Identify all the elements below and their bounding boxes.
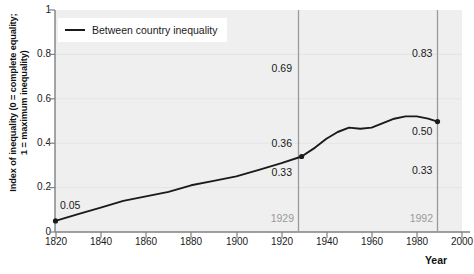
annotation-value: 0.50 [412,125,432,137]
annotation-value: 0.36 [252,137,292,149]
data-point-markers [53,119,440,223]
annotation-value: 0.83 [412,47,432,59]
annotation-value: 0.33 [412,164,432,176]
x-axis-tick-marks [56,232,462,238]
vertical-line-label-1929: 1929 [254,212,294,224]
axis-lines [55,10,470,232]
annotation-value: 0.05 [60,199,80,211]
annotation-value: 0.33 [252,166,292,178]
legend-entry-label: Between country inequality [92,24,218,36]
vertical-reference-lines [299,10,438,232]
data-line-between-country-inequality [56,116,438,220]
legend-line-swatch [65,29,85,31]
vertical-line-label-1992: 1992 [393,212,433,224]
annotation-value: 0.69 [252,62,292,74]
y-axis-tick-marks [49,10,55,232]
legend: Between country inequality [58,18,227,42]
chart-figure: Index of inequality (0 = complete equali… [0,0,474,274]
